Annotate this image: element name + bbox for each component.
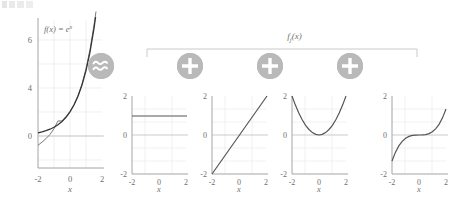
x-tick-label: 2 [344,178,348,187]
y-tick-label: 2 [283,92,287,101]
bracket-label-tail: (x) [292,31,302,41]
y-tick-label: -2 [120,170,127,179]
equation-annotation-exponent: x [69,24,73,30]
operator-plus-1 [177,53,203,79]
y-tick-label: 0 [28,131,32,141]
x-axis-label: x [416,184,421,194]
x-tick-label: 2 [100,174,104,184]
chart-term-quadratic: 2 0 -2 -2 0 2 x [270,92,350,192]
operator-approx-equal [88,53,114,79]
chart-term-cubic: 2 0 -2 -2 0 2 x [370,92,450,192]
x-tick-label: -2 [129,178,136,187]
x-tick-label: 2 [444,178,448,187]
y-tick-label: 4 [28,83,33,93]
x-tick-label: -2 [34,174,41,184]
approx-equal-icon [88,53,114,79]
x-tick-label: 0 [68,174,72,184]
x-tick-label: -2 [289,178,296,187]
chart-term-cubic-svg: 2 0 -2 -2 0 2 x [370,92,450,192]
chart-term-constant: 2 0 -2 -2 0 2 x [110,92,190,192]
chart-term-constant-svg: 2 0 -2 -2 0 2 x [110,92,190,192]
x-axis-label: x [156,184,161,194]
y-tick-label: -2 [280,170,287,179]
bracket-label: fj(x) [0,31,453,43]
y-tick-label: 0 [383,131,387,140]
y-tick-label: 2 [203,92,207,101]
x-tick-label: -2 [209,178,216,187]
x-tick-label: -2 [389,178,396,187]
operator-plus-2 [257,53,283,79]
plus-icon [337,53,363,79]
y-tick-label: 0 [123,131,127,140]
x-tick-label: 2 [184,178,188,187]
y-tick-label: -2 [380,170,387,179]
taylor-series-figure: 6 4 0 1 -2 0 2 x f(x) = ex [data-name="c… [0,0,453,200]
y-tick-label: 2 [123,92,127,101]
chart-term-linear-svg: 2 0 -2 -2 0 2 x [190,92,270,192]
chart-term-linear: 2 0 -2 -2 0 2 x [190,92,270,192]
y-tick-label: 2 [383,92,387,101]
series-quadratic [292,96,346,135]
x-tick-label: 2 [264,178,268,187]
chart-term-quadratic-svg: 2 0 -2 -2 0 2 x [270,92,350,192]
x-axis-label: x [236,184,241,194]
x-axis-label: x [67,184,72,194]
y-tick-label: -2 [200,170,207,179]
scan-artifact [2,1,36,8]
plus-icon [257,53,283,79]
y-tick-label: 0 [203,131,207,140]
operator-plus-3 [337,53,363,79]
y-tick-label: 0 [283,131,287,140]
plus-icon [177,53,203,79]
x-axis-label: x [316,184,321,194]
